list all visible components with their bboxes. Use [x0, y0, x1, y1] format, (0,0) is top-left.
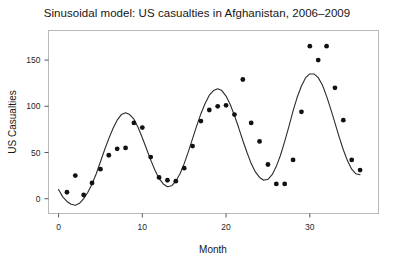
data-point	[299, 109, 304, 114]
data-point	[173, 179, 178, 184]
data-point	[291, 157, 296, 162]
x-axis-title: Month	[199, 244, 227, 255]
y-axis-tick-labels: 050100150	[26, 55, 40, 204]
data-point	[333, 85, 338, 90]
data-point	[341, 118, 346, 123]
x-axis-ticks	[59, 214, 310, 218]
y-tick-label: 150	[26, 55, 40, 65]
data-point	[199, 119, 204, 124]
data-point	[249, 121, 254, 126]
data-point	[157, 175, 162, 180]
plot-frame	[49, 31, 379, 214]
x-axis-tick-labels: 0102030	[56, 222, 315, 232]
casualty-data-points	[65, 44, 363, 198]
data-point	[123, 145, 128, 150]
data-point	[115, 146, 120, 151]
y-tick-label: 100	[26, 101, 40, 111]
data-point	[182, 166, 187, 171]
data-point	[190, 144, 195, 149]
data-point	[307, 44, 312, 49]
data-point	[207, 108, 212, 113]
y-tick-label: 0	[36, 194, 41, 204]
x-tick-label: 20	[221, 222, 231, 232]
x-tick-label: 30	[305, 222, 315, 232]
data-point	[140, 125, 145, 130]
x-tick-label: 0	[56, 222, 61, 232]
data-point	[148, 155, 153, 160]
data-point	[106, 153, 111, 158]
data-point	[257, 139, 262, 144]
data-point	[73, 173, 78, 178]
data-point	[316, 58, 321, 63]
y-axis-title: US Casualties	[7, 90, 18, 153]
data-point	[98, 167, 103, 172]
data-point	[132, 121, 137, 126]
chart-plot-area: 0102030 050100150 Month US Casualties	[0, 0, 394, 264]
data-point	[282, 182, 287, 187]
y-axis-ticks	[45, 60, 49, 199]
data-point	[224, 103, 229, 108]
data-point	[266, 162, 271, 167]
y-tick-label: 50	[31, 148, 41, 158]
data-point	[274, 182, 279, 187]
data-point	[165, 178, 170, 183]
data-point	[358, 168, 363, 173]
data-point	[349, 157, 354, 162]
data-point	[81, 193, 86, 198]
data-point	[324, 44, 329, 49]
x-tick-label: 10	[138, 222, 148, 232]
chart-figure: Sinusoidal model: US casualties in Afgha…	[0, 0, 394, 264]
data-point	[240, 77, 245, 82]
sinusoidal-model-curve	[59, 74, 361, 205]
data-point	[215, 104, 220, 109]
data-point	[65, 190, 70, 195]
data-point	[232, 112, 237, 117]
data-point	[90, 181, 95, 186]
